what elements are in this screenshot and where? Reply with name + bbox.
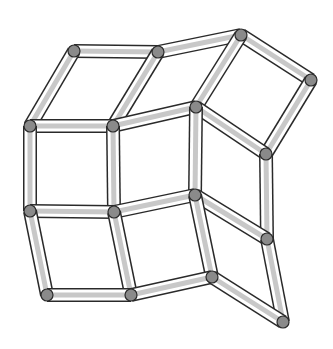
joint-node-M: [41, 289, 53, 301]
rod-I-M: [30, 211, 47, 295]
joint-node-G: [190, 101, 202, 113]
joint-node-O: [206, 271, 218, 283]
joint-node-K: [189, 189, 201, 201]
rod-J-K: [114, 195, 195, 212]
joint-node-D: [305, 74, 317, 86]
rod-and-node-framework: [0, 0, 333, 349]
rod-F-J: [113, 126, 114, 212]
rod-H-L: [266, 154, 267, 239]
rod-G-H: [196, 107, 266, 154]
joint-node-J: [108, 206, 120, 218]
rod-C-D: [241, 35, 311, 80]
rod-G-K: [195, 107, 196, 195]
joint-node-A: [68, 45, 80, 57]
joint-node-L: [261, 233, 273, 245]
joint-node-F: [107, 120, 119, 132]
joint-node-P: [277, 316, 289, 328]
rod-A-B: [74, 51, 158, 52]
rod-N-O: [131, 277, 212, 295]
diagram-canvas: [0, 0, 333, 349]
joint-node-C: [235, 29, 247, 41]
rod-J-N: [114, 212, 131, 295]
joint-node-N: [125, 289, 137, 301]
joint-node-I: [24, 205, 36, 217]
joint-node-B: [152, 46, 164, 58]
rod-D-H: [266, 80, 311, 154]
rod-A-E: [30, 51, 74, 126]
joint-node-E: [24, 120, 36, 132]
joint-node-H: [260, 148, 272, 160]
rods-group: [30, 35, 311, 322]
rod-I-J: [30, 211, 114, 212]
